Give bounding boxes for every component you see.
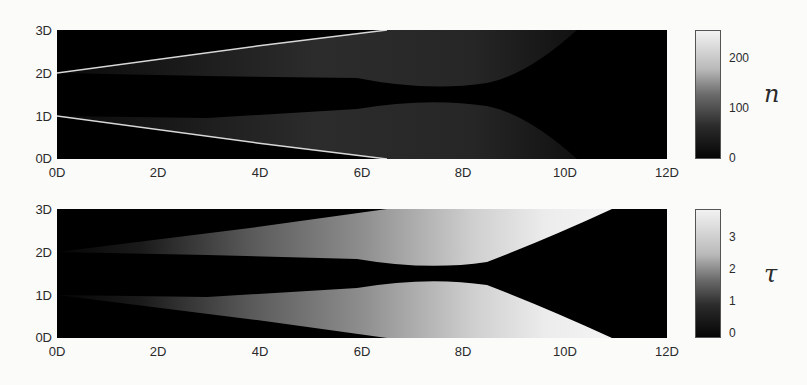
x-tick: 2D [138,344,178,359]
colorbar-tick: 0 [729,326,736,340]
bottom-panel-tau: 3D 2D 1D 0D 0D 2D 4D 6D 8D 10D 12D [0,0,807,385]
x-tick: 0D [37,344,77,359]
y-tick: 2D [12,245,52,260]
x-tick: 10D [545,344,585,359]
y-tick: 0D [12,330,52,345]
colorbar-label-tau: τ [764,260,777,288]
heatmap-tau-graphic [57,209,667,338]
x-tick: 6D [342,344,382,359]
colorbar-tick: 1 [729,294,736,308]
y-tick: 1D [12,288,52,303]
heatmap-tau [57,209,667,338]
colorbar-tick: 2 [729,262,736,276]
x-tick: 8D [443,344,483,359]
colorbar-tau [695,209,721,338]
colorbar-tick: 3 [729,230,736,244]
y-tick: 3D [12,202,52,217]
x-tick: 12D [647,344,687,359]
x-tick: 4D [240,344,280,359]
